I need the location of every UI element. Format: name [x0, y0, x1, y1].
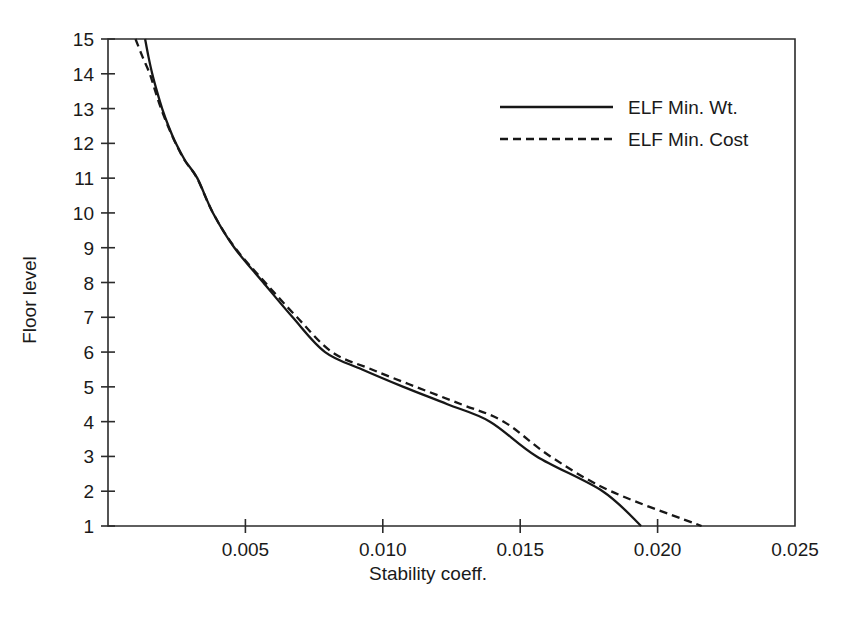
x-tick-label: 0.005 — [222, 539, 270, 560]
series-elf-min-wt — [145, 39, 641, 526]
x-axis: 0.0050.0100.0150.0200.025 — [222, 519, 819, 560]
y-tick-label: 13 — [73, 99, 94, 120]
y-tick-label: 12 — [73, 133, 94, 154]
y-axis-title: Floor level — [19, 256, 40, 344]
y-tick-label: 6 — [83, 342, 94, 363]
y-tick-label: 11 — [74, 168, 94, 189]
series-elf-min-cost — [135, 39, 701, 526]
y-tick-label: 2 — [83, 481, 94, 502]
y-tick-label: 3 — [83, 446, 94, 467]
legend-label: ELF Min. Cost — [628, 129, 749, 150]
x-tick-label: 0.025 — [771, 539, 819, 560]
y-tick-label: 8 — [83, 273, 94, 294]
x-tick-label: 0.020 — [634, 539, 682, 560]
x-tick-label: 0.010 — [359, 539, 407, 560]
stability-coefficient-chart: 123456789101112131415 0.0050.0100.0150.0… — [0, 0, 855, 617]
y-tick-label: 9 — [83, 238, 94, 259]
x-tick-label: 0.015 — [496, 539, 544, 560]
y-tick-label: 14 — [73, 64, 95, 85]
y-tick-label: 4 — [83, 412, 94, 433]
y-tick-label: 1 — [83, 516, 94, 537]
legend-label: ELF Min. Wt. — [628, 97, 738, 118]
chart-figure: 123456789101112131415 0.0050.0100.0150.0… — [0, 0, 855, 617]
legend: ELF Min. Wt.ELF Min. Cost — [500, 97, 749, 150]
x-axis-title: Stability coeff. — [369, 563, 487, 584]
y-tick-label: 15 — [73, 29, 94, 50]
y-tick-label: 5 — [83, 377, 94, 398]
series-group — [135, 39, 701, 526]
y-tick-label: 7 — [83, 307, 94, 328]
y-tick-label: 10 — [73, 203, 94, 224]
